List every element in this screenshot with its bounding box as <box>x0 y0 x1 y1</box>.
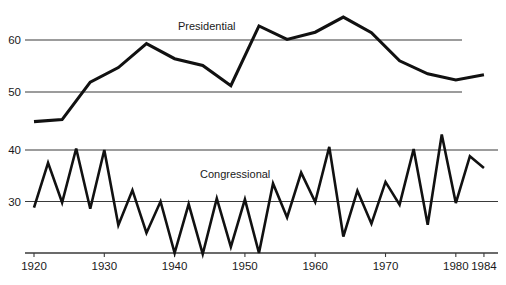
series-line-congressional <box>34 135 484 254</box>
x-axis-label-1950: 1950 <box>232 260 258 272</box>
series-line-presidential <box>34 17 484 122</box>
x-axis-label-1970: 1970 <box>373 260 399 272</box>
x-axis-label-1980: 1980 <box>443 260 469 272</box>
x-axis-label-1940: 1940 <box>162 260 188 272</box>
series-annotation-congressional: Congressional <box>200 168 270 180</box>
x-axis-label-1984: 1984 <box>471 260 497 272</box>
y-axis-label-presidential-50: 50 <box>8 86 21 98</box>
chart-container: 5060304019201930194019501960197019801984… <box>0 0 506 285</box>
y-axis-label-congressional-40: 40 <box>8 144 21 156</box>
y-axis-label-presidential-60: 60 <box>8 34 21 46</box>
series-annotation-presidential: Presidential <box>178 20 235 32</box>
x-axis-label-1930: 1930 <box>92 260 118 272</box>
dual-panel-line-chart: 5060304019201930194019501960197019801984… <box>0 0 506 285</box>
y-axis-label-congressional-30: 30 <box>8 196 21 208</box>
x-axis-label-1920: 1920 <box>21 260 47 272</box>
x-axis-label-1960: 1960 <box>302 260 328 272</box>
